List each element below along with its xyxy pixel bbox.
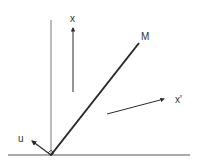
label-u: u [18,133,24,144]
segment-om [51,43,139,155]
vector-x-prime-arrow-icon [107,99,164,114]
label-x: x [70,13,75,24]
label-x-prime: x' [175,94,182,105]
vector-diagram: x M x' u [0,0,199,164]
label-m: M [141,31,149,42]
